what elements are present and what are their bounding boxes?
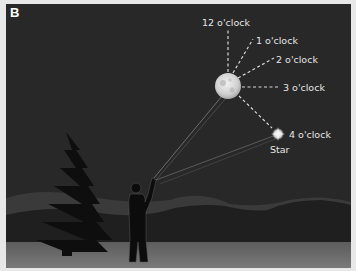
label-2-oclock: 2 o'clock [276,54,318,65]
label-12-oclock: 12 o'clock [202,17,250,28]
figure-frame: 12 o'clock 1 o'clock 2 o'clock 3 o'clock… [0,0,356,271]
label-3-oclock: 3 o'clock [283,82,325,93]
label-1-oclock: 1 o'clock [256,35,298,46]
moon-icon [215,73,241,99]
panel-letter: B [10,5,19,20]
label-4-oclock: 4 o'clock [289,129,331,140]
night-sky-diagram: 12 o'clock 1 o'clock 2 o'clock 3 o'clock… [0,0,356,271]
label-star: Star [270,144,290,155]
